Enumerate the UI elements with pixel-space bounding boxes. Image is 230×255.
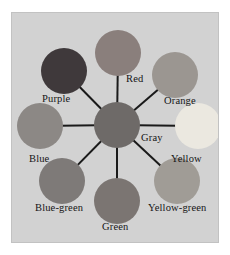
- color-node-blue-green[interactable]: [39, 158, 85, 204]
- label-green: Green: [102, 221, 128, 232]
- label-yellow: Yellow: [171, 153, 202, 164]
- color-node-red[interactable]: [95, 30, 141, 76]
- color-node-blue[interactable]: [17, 103, 63, 149]
- color-node-purple[interactable]: [41, 48, 87, 94]
- color-wheel: RedOrangeYellowYellow-greenGreenBlue-gre…: [12, 13, 219, 243]
- label-orange: Orange: [164, 95, 196, 106]
- label-blue: Blue: [29, 153, 49, 164]
- label-yellow-green: Yellow-green: [148, 202, 206, 213]
- label-gray: Gray: [141, 132, 163, 143]
- label-purple: Purple: [42, 93, 70, 104]
- color-node-yellow[interactable]: [175, 103, 219, 149]
- color-node-yellow-green[interactable]: [154, 158, 200, 204]
- color-node-green[interactable]: [94, 178, 140, 224]
- color-node-orange[interactable]: [152, 52, 198, 98]
- diagram-panel: RedOrangeYellowYellow-greenGreenBlue-gre…: [11, 12, 219, 243]
- figure-root: RedOrangeYellowYellow-greenGreenBlue-gre…: [0, 0, 230, 255]
- label-blue-green: Blue-green: [35, 202, 83, 213]
- label-red: Red: [126, 73, 143, 84]
- color-node-gray-center[interactable]: [94, 102, 140, 148]
